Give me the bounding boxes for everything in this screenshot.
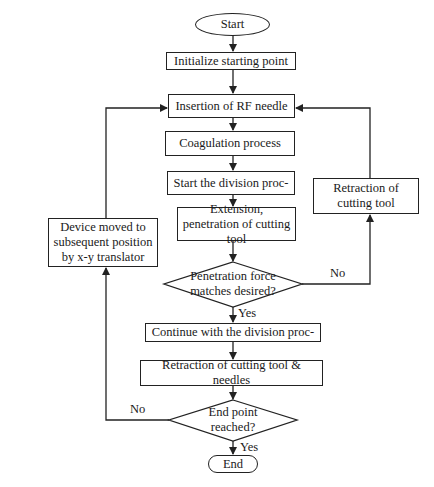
step-label: Retraction of cutting tool: [317, 181, 415, 211]
step-label: Initialize starting point: [174, 54, 288, 69]
step-label: Device moved to subsequent position by x…: [52, 220, 154, 265]
step-label: Retraction of cutting tool & needles: [144, 358, 319, 388]
step-label: Continue with the division proc-: [152, 325, 314, 340]
step-extension: Extension, penetration of cutting tool: [177, 207, 296, 241]
decision-force-no-label: No: [330, 266, 345, 280]
step-continue-division: Continue with the division proc-: [145, 323, 321, 342]
arrow-retract-tool-insert: [296, 108, 370, 178]
decision-endpoint-yes-label: Yes: [240, 440, 258, 454]
decision-endpoint-no-label: No: [130, 402, 145, 416]
arrow-endpoint-no: [106, 268, 169, 420]
step-start-division: Start the division proc-: [167, 171, 295, 195]
step-label: Coagulation process: [179, 136, 281, 151]
decision-label: End point reached?: [190, 405, 276, 435]
step-initialize: Initialize starting point: [166, 52, 296, 70]
end-label: End: [223, 457, 243, 472]
arrow-device-insert: [106, 108, 167, 218]
step-insertion: Insertion of RF needle: [168, 94, 295, 118]
step-device-moved: Device moved to subsequent position by x…: [48, 218, 158, 267]
step-label: Start the division proc-: [174, 176, 289, 191]
step-retract-tool: Retraction of cutting tool: [313, 178, 419, 214]
decision-force-label: Penetration force matches desired?: [176, 268, 290, 300]
step-label: Extension, penetration of cutting tool: [181, 202, 292, 247]
step-coagulation: Coagulation process: [165, 131, 295, 156]
decision-force-yes-label: Yes: [238, 306, 256, 320]
decision-endpoint-label: End point reached?: [190, 404, 276, 436]
end-terminal: End: [208, 455, 258, 473]
step-label: Insertion of RF needle: [175, 99, 287, 114]
flowchart: Start Initialize starting point Insertio…: [0, 0, 434, 487]
decision-label: Penetration force matches desired?: [176, 269, 290, 299]
start-label: Start: [221, 17, 245, 32]
step-retract-all: Retraction of cutting tool & needles: [140, 360, 323, 386]
start-terminal: Start: [195, 13, 270, 36]
